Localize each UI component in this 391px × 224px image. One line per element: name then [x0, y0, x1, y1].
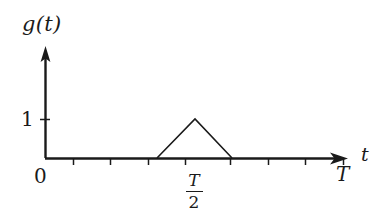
x-axis-tick-label-period: T — [336, 164, 349, 184]
figure-canvas: g(t) 1 0 t T T 2 — [0, 0, 391, 224]
origin-label: 0 — [34, 166, 47, 186]
x-axis-variable-label: t — [361, 145, 369, 164]
y-axis-tick-label-one: 1 — [21, 109, 34, 129]
y-axis-function-label: g(t) — [22, 14, 61, 35]
x-axis-tick-label-half-period: T 2 — [181, 172, 207, 211]
half-period-numerator: T — [186, 172, 201, 190]
half-period-denominator: 2 — [187, 193, 202, 211]
